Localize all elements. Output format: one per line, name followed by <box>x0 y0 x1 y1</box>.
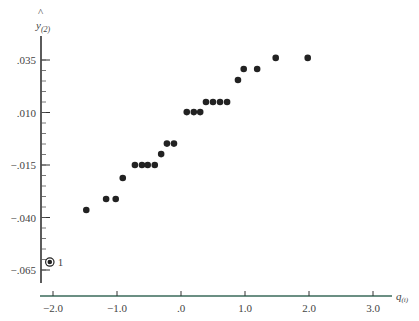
data-point <box>224 99 231 106</box>
data-point <box>139 162 146 169</box>
data-point <box>164 140 171 147</box>
data-point <box>304 55 311 62</box>
data-point <box>191 109 198 116</box>
data-point <box>103 196 110 203</box>
y-tick-label: −.015 <box>11 159 37 171</box>
data-point <box>158 151 165 158</box>
axes: .035.010−.015−.040−.065−2.0−1.0.01.02.03… <box>11 6 409 314</box>
annotations: 1 <box>46 256 64 268</box>
data-point <box>210 99 217 106</box>
data-point <box>83 207 90 214</box>
y-tick-label: .010 <box>17 107 37 119</box>
x-tick-label: 3.0 <box>366 302 380 314</box>
data-point <box>171 140 178 147</box>
data-point <box>203 99 210 106</box>
data-point <box>183 109 190 116</box>
y-tick-label: −.040 <box>11 212 37 224</box>
data-point <box>132 162 139 169</box>
data-point <box>235 77 242 84</box>
x-tick-label: −2.0 <box>43 302 63 314</box>
data-point <box>197 109 204 116</box>
y-hat-icon: ^ <box>38 6 44 18</box>
data-point <box>151 162 158 169</box>
data-point <box>254 66 261 73</box>
data-point <box>144 162 151 169</box>
data-point <box>217 99 224 106</box>
data-point <box>119 175 126 182</box>
x-tick-label: 1.0 <box>238 302 252 314</box>
data-point <box>272 55 279 62</box>
scatter-plot: .035.010−.015−.040−.065−2.0−1.0.01.02.03… <box>0 0 419 321</box>
x-axis-title: q(i) <box>396 290 409 304</box>
outlier-label: 1 <box>58 256 64 268</box>
y-axis-title: y(2) <box>35 19 51 34</box>
data-point <box>112 196 119 203</box>
data-points <box>83 55 311 214</box>
x-tick-label: .0 <box>177 302 186 314</box>
x-tick-label: 2.0 <box>302 302 316 314</box>
y-tick-label: −.065 <box>11 264 37 276</box>
data-point <box>240 66 247 73</box>
outlier-point <box>48 260 53 265</box>
y-tick-label: .035 <box>17 54 37 66</box>
x-tick-label: −1.0 <box>107 302 127 314</box>
